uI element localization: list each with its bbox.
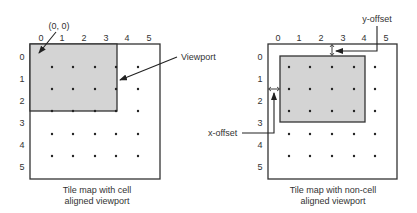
left-col-label: 5 [146,33,151,43]
left-col-label: 2 [81,33,86,43]
left-tile-map: 0 1 2 3 4 5 0 1 2 3 4 5 (0, 0) Viewport … [19,21,216,206]
x-offset-label: x-offset [208,128,238,138]
left-caption-line1: Tile map with cell [63,185,132,195]
left-row-label: 3 [19,118,24,128]
left-viewport [30,44,117,111]
y-offset-label: y-offset [362,14,392,24]
right-col-label: 2 [318,33,323,43]
right-row-label: 4 [257,140,262,150]
right-row-label: 3 [257,118,262,128]
right-row-label: 1 [257,74,262,84]
left-row-label: 0 [19,52,24,62]
viewport-label: Viewport [181,52,216,62]
right-row-label: 0 [257,52,262,62]
right-col-label: 1 [296,33,301,43]
left-col-label: 4 [124,33,129,43]
left-row-label: 4 [19,140,24,150]
right-col-label: 3 [340,33,345,43]
left-caption-line2: aligned viewport [64,196,130,206]
right-col-label: 5 [383,33,388,43]
left-col-label: 0 [38,33,43,43]
right-col-label: 4 [361,33,366,43]
left-col-label: 3 [103,33,108,43]
right-caption-line2: aligned viewport [300,196,366,206]
left-row-label: 2 [19,96,24,106]
right-col-label: 0 [275,33,280,43]
left-row-label: 1 [19,74,24,84]
origin-label: (0, 0) [48,21,69,31]
right-caption-line1: Tile map with non-cell [290,185,377,195]
right-tile-map: 0 1 2 3 4 5 0 1 2 3 4 5 y-offset x-offse… [208,14,397,206]
right-viewport [280,56,365,122]
right-row-label: 2 [257,96,262,106]
tile-map-diagram: 0 1 2 3 4 5 0 1 2 3 4 5 (0, 0) Viewport … [0,0,417,213]
left-col-label: 1 [59,33,64,43]
left-row-label: 5 [19,162,24,172]
right-row-label: 5 [257,162,262,172]
